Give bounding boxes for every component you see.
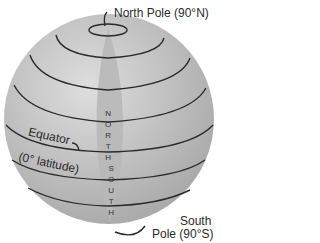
south-arrow [115,226,145,235]
south-letters: S O U T H [108,163,114,218]
south-pole-label-2: Pole (90°S) [152,228,214,241]
north-letters: N O R T H [105,108,111,163]
north-pole-label: North Pole (90°N) [114,7,209,20]
